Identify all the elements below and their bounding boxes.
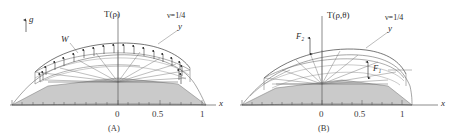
- panel-b-group: [240, 16, 438, 105]
- figure-container: T(ρ) ν=1/4 g W y x 0 0.5 1 (A) T(ρ,θ) ν=…: [0, 0, 455, 140]
- panel-b-radial-mesh: [264, 50, 396, 84]
- panel-a-load-leader: [70, 43, 78, 53]
- panel-a-graphic: [0, 0, 455, 140]
- panel-a-y-leader: [158, 30, 178, 44]
- panel-b-y-leader: [366, 32, 388, 48]
- panel-a-group: [10, 14, 216, 105]
